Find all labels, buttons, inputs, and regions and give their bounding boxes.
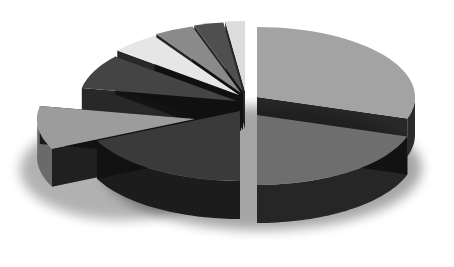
pie-chart-3d — [0, 0, 454, 267]
chart-canvas — [0, 0, 454, 267]
